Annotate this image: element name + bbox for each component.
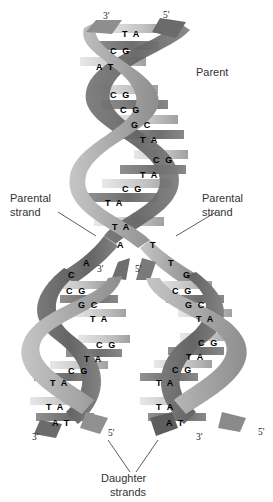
daughter-left-base-pair: T A <box>50 378 69 388</box>
end-label-daughter-left-5prime: 5' <box>108 428 114 439</box>
parent-base-pair: C G <box>122 184 143 194</box>
end-label-parent-top-right: 5' <box>163 10 169 21</box>
fork-base-right: T <box>168 258 174 268</box>
daughter-right-base-pair: C G <box>172 286 193 296</box>
daughter-right-base-pair: T A <box>156 378 175 388</box>
daughter-right-base-pair: G C <box>185 300 206 310</box>
fork-base-left: A <box>117 240 124 250</box>
parent-base-pair: C G <box>120 105 141 115</box>
daughter-right-5prime-terminus <box>218 412 246 432</box>
end-label-fork-right: 5' <box>135 264 141 275</box>
daughter-right-base-pair: T A <box>156 402 175 412</box>
end-label-daughter-right-3prime: 3' <box>196 432 202 443</box>
parent-base-pair: C G <box>110 46 131 56</box>
label-daughter-strands-line1: Daughter <box>101 472 146 484</box>
daughter-right-base-pair: T A <box>196 314 215 324</box>
parent-base-pair: C G <box>153 155 174 165</box>
daughter-left-base-pair: T A <box>84 354 103 364</box>
daughter-left-base-pair: T A <box>46 402 65 412</box>
daughter-right-base-pair: T A <box>186 352 205 362</box>
daughter-left-base-pair: T A <box>90 314 109 324</box>
daughter-right-base-pair: C G <box>172 365 193 375</box>
daughter-left-base-pair: C G <box>68 366 89 376</box>
label-parental-strand-left-line1: Parental <box>10 192 51 204</box>
label-parental-strand-right-line1: Parental <box>202 192 243 204</box>
label-parental-strand-left-line2: strand <box>10 206 41 218</box>
parent-base-pair: T A <box>112 222 131 232</box>
fork-base-left: A <box>83 258 90 268</box>
label-daughter-strands-line2: strands <box>110 486 146 498</box>
end-label-parent-top-left: 3' <box>103 11 109 22</box>
end-label-daughter-right-5prime: 5' <box>258 427 264 438</box>
parent-base-pair: T A <box>140 170 159 180</box>
daughter-left-base-pair: C G <box>66 286 87 296</box>
parent-base-pair: T A <box>105 198 124 208</box>
dna-replication-figure: Parent Parental strand Parental strand D… <box>0 0 273 502</box>
label-parent: Parent <box>196 66 228 78</box>
end-label-daughter-left-3prime: 3' <box>32 432 38 443</box>
daughter-left-base-pair: C G <box>96 340 117 350</box>
daughter-right-base-pair: C G <box>198 338 219 348</box>
parent-base-pair: C G <box>110 90 131 100</box>
daughter-right-base-pair: A T <box>166 418 185 428</box>
dna-helix-illustration <box>0 0 273 502</box>
leader-daughter-right <box>136 440 158 472</box>
parent-base-pair: A T <box>96 62 115 72</box>
parent-base-pair: G C <box>131 120 152 130</box>
label-parental-strand-right-line2: strand <box>202 206 233 218</box>
parent-base-pair: T A <box>122 29 141 39</box>
daughter-left-base-pair: A T <box>52 418 71 428</box>
fork-base-right: T <box>150 240 156 250</box>
fork-base-right: G <box>183 270 190 280</box>
parent-base-pair: T A <box>140 135 159 145</box>
end-label-fork-left: 3' <box>97 264 103 275</box>
leader-daughter-left <box>108 440 130 472</box>
daughter-left-base-pair: G C <box>78 300 99 310</box>
fork-base-left: C <box>68 270 75 280</box>
